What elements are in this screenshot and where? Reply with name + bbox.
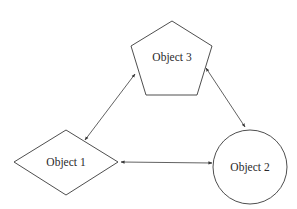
node-object1[interactable]: Object 1 — [14, 130, 118, 195]
edge-object1-object3 — [85, 74, 135, 140]
node-label-object3: Object 3 — [152, 51, 192, 64]
node-object3[interactable]: Object 3 — [131, 21, 212, 95]
node-label-object1: Object 1 — [46, 156, 86, 169]
edge-object1-object2 — [121, 162, 212, 163]
relationship-diagram: Object 3 Object 1 Object 2 — [0, 0, 297, 209]
edge-object3-object2 — [206, 68, 245, 127]
node-label-object2: Object 2 — [230, 161, 270, 174]
node-object2[interactable]: Object 2 — [213, 130, 287, 204]
